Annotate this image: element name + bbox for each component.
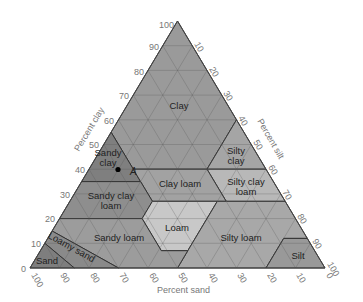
label-silt: Silt: [291, 250, 305, 261]
svg-text:40: 40: [206, 271, 220, 285]
soil-texture-triangle: Clay Sandy clay Silty clay Silty clay lo…: [0, 0, 363, 302]
label-sandy-loam: Sandy loam: [94, 232, 144, 243]
svg-text:50: 50: [176, 271, 190, 285]
svg-text:30: 30: [235, 271, 249, 285]
point-a-label: A: [129, 166, 137, 177]
svg-text:30: 30: [60, 190, 70, 200]
label-silty-clay-2: clay: [228, 155, 245, 166]
svg-text:40: 40: [75, 165, 85, 175]
label-silty-loam: Silty loam: [220, 232, 261, 243]
label-clay-loam: Clay loam: [159, 178, 201, 189]
svg-text:100: 100: [29, 271, 45, 289]
svg-text:20: 20: [265, 271, 279, 285]
point-a-marker: [115, 167, 120, 172]
svg-text:50: 50: [89, 140, 99, 150]
svg-text:100: 100: [159, 20, 174, 30]
label-sandy-clay-loam-2: loam: [101, 200, 122, 211]
svg-text:0: 0: [21, 264, 26, 274]
svg-text:10: 10: [31, 239, 41, 249]
svg-text:70: 70: [117, 271, 131, 285]
svg-text:70: 70: [119, 91, 129, 101]
svg-text:80: 80: [134, 67, 144, 77]
svg-text:90: 90: [58, 271, 72, 285]
svg-text:60: 60: [147, 271, 161, 285]
svg-text:20: 20: [45, 214, 55, 224]
label-silty-clay-loam-2: loam: [236, 186, 257, 197]
svg-text:90: 90: [149, 42, 159, 52]
label-clay: Clay: [169, 100, 188, 111]
label-sand: Sand: [36, 255, 58, 266]
label-loam: Loam: [165, 222, 189, 233]
svg-text:80: 80: [88, 271, 102, 285]
svg-text:0: 0: [324, 271, 335, 280]
svg-text:10: 10: [294, 271, 308, 285]
label-sandy-clay-2: clay: [100, 157, 117, 168]
svg-text:60: 60: [104, 116, 114, 126]
sand-axis-title: Percent sand: [157, 285, 210, 295]
